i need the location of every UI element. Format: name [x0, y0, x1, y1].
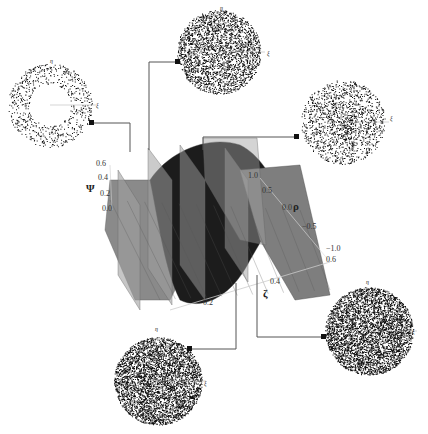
- scatter-points: [177, 10, 261, 95]
- scatter-points: [302, 81, 386, 165]
- disk-bottom-left: [114, 337, 206, 425]
- rho-axis-label: ρ: [293, 200, 299, 212]
- scatter-points: [325, 287, 414, 376]
- zeta-tick-0.2: 0.2: [203, 298, 213, 307]
- disk-bottom-left-xi-label: ξ: [204, 380, 207, 387]
- zeta-tick-0.4: 0.4: [270, 277, 280, 286]
- rho-tick-neg1.0: −1.0: [326, 244, 341, 253]
- disk-right-xi-label: ξ: [390, 115, 393, 122]
- connector-left: [92, 123, 130, 152]
- zeta-tick-0.6: 0.6: [326, 255, 336, 264]
- disk-top-xi-label: ξ: [267, 50, 270, 57]
- disk-left: [9, 64, 96, 148]
- scatter-points: [114, 337, 203, 425]
- rho-tick-neg0.5: −0.5: [302, 222, 317, 231]
- z-tick-0.2: 0.2: [100, 189, 110, 198]
- z-axis-label: Ψ: [86, 182, 95, 194]
- disk-bottom-right-eta-label: η: [366, 279, 369, 285]
- rho-tick-0.0: 0.0: [282, 203, 292, 212]
- connector-top: [149, 62, 178, 150]
- disk-bottom-right-xi-label: ξ: [412, 328, 415, 335]
- rho-tick-0.5: 0.5: [262, 186, 272, 195]
- scatter-points: [9, 64, 93, 148]
- z-tick-0.0: 0.0: [102, 204, 112, 213]
- disk-left-eta-label: η: [50, 58, 53, 64]
- z-tick-0.6: 0.6: [96, 159, 106, 168]
- figure: 0.6 0.4 0.2 0.0 Ψ 1.0 0.5 0.0 ρ −0.5 −1.…: [0, 0, 428, 434]
- surface-plot: [90, 138, 330, 320]
- zeta-axis-label: ζ: [263, 287, 268, 300]
- disk-right: [302, 81, 389, 165]
- disk-top: [177, 10, 265, 95]
- disk-bottom-right: [325, 287, 417, 376]
- disk-left-xi-label: ξ: [96, 102, 99, 109]
- rho-tick-1.0: 1.0: [248, 171, 258, 180]
- disk-top-eta-label: η: [220, 5, 223, 11]
- z-tick-0.4: 0.4: [98, 173, 108, 182]
- disk-bottom-left-eta-label: η: [155, 326, 158, 332]
